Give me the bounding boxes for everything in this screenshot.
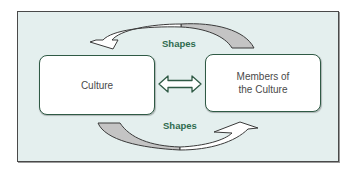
members-node-label: Members of the Culture — [237, 70, 290, 96]
bidirectional-arrow-icon — [159, 76, 201, 92]
members-node-label-line2: the Culture — [239, 84, 288, 95]
edge-label-bottom: Shapes — [163, 120, 197, 131]
culture-node-label: Culture — [81, 79, 113, 92]
members-of-the-culture-node: Members of the Culture — [205, 54, 321, 112]
members-node-label-line1: Members of — [237, 71, 290, 82]
edge-label-top: Shapes — [162, 38, 196, 49]
culture-node: Culture — [39, 55, 155, 115]
